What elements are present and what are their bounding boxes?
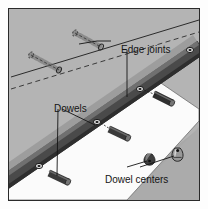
edge-joint-hole-4 [35, 163, 42, 168]
edge-joint-hole-3 [93, 119, 100, 124]
ghost-dowel-upper [72, 29, 105, 51]
illustration-plate: Edge joints Dowels Dowel centers [8, 8, 200, 201]
edge-joint-hole-1 [186, 47, 193, 52]
edge-joint-hole-2 [136, 86, 143, 91]
illustration-vector-layer [9, 9, 199, 200]
label-edge-joints: Edge joints [121, 44, 170, 55]
label-dowels: Dowels [54, 103, 87, 114]
dowel-center-marker-outline [172, 148, 183, 161]
label-dowel-centers: Dowel centers [105, 174, 168, 185]
dowel-joint-assembly-diagram: Edge joints Dowels Dowel centers [0, 0, 208, 209]
